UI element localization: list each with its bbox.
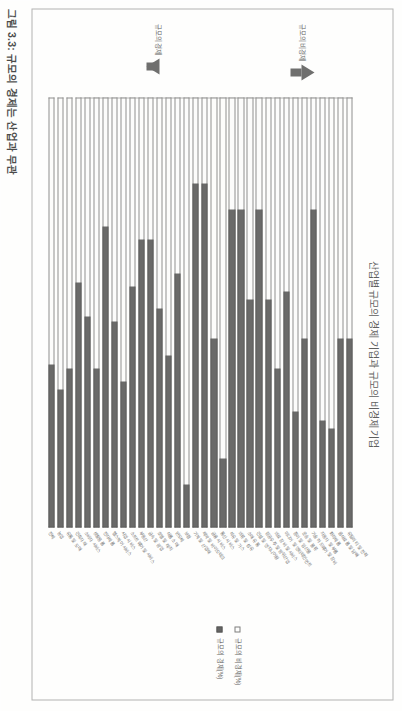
bar-series-container xyxy=(48,97,352,527)
bar-segment-economies xyxy=(301,338,307,527)
figure-frame: 산업별 규모의 경제 기업과 규모의 비경제 기업 규모의 비경제 규모의 경제 xyxy=(31,8,393,700)
bar-row xyxy=(210,97,216,527)
bar-segment-diseconomies xyxy=(183,97,189,484)
bar-row xyxy=(337,97,343,527)
bar-row xyxy=(66,97,72,527)
bar-row xyxy=(346,97,352,527)
bar-segment-diseconomies xyxy=(246,97,252,299)
bar-row xyxy=(48,97,54,527)
arrow-down-icon xyxy=(146,58,170,74)
bar-segment-diseconomies xyxy=(201,97,207,183)
bar-segment-economies xyxy=(138,239,144,527)
bar-segment-economies xyxy=(310,209,316,527)
bar-segment-economies xyxy=(57,389,63,527)
bar-segment-economies xyxy=(292,411,298,527)
bar-row xyxy=(265,97,271,527)
bar-segment-diseconomies xyxy=(48,97,54,364)
hollow-square-icon xyxy=(235,626,241,632)
bar-row xyxy=(93,97,99,527)
bar-row xyxy=(219,97,225,527)
bar-segment-economies xyxy=(219,458,225,527)
bar-segment-economies xyxy=(319,420,325,528)
bar-segment-economies xyxy=(120,381,126,527)
bar-segment-economies xyxy=(147,239,153,527)
bar-row xyxy=(228,97,234,527)
bar-row xyxy=(75,97,81,527)
bar-segment-economies xyxy=(183,484,189,527)
bar-segment-diseconomies xyxy=(292,97,298,411)
bar-segment-economies xyxy=(346,338,352,527)
bar-segment-economies xyxy=(283,291,289,528)
scanned-book-page: 산업별 규모의 경제 기업과 규모의 비경제 기업 규모의 비경제 규모의 경제 xyxy=(0,0,402,711)
bar-segment-economies xyxy=(174,273,180,527)
bar-row xyxy=(274,97,280,527)
figure-caption: 그림 3.3: 규모의 경제는 산업과 무관 xyxy=(4,8,19,175)
bar-row xyxy=(174,97,180,527)
bar-segment-diseconomies xyxy=(237,97,243,209)
bar-segment-economies xyxy=(237,209,243,527)
bar-segment-diseconomies xyxy=(256,97,262,209)
bar-segment-diseconomies xyxy=(301,97,307,338)
bar-segment-diseconomies xyxy=(219,97,225,458)
bar-segment-economies xyxy=(84,316,90,527)
bar-row xyxy=(283,97,289,527)
bar-segment-diseconomies xyxy=(328,97,334,428)
bar-segment-economies xyxy=(156,308,162,527)
bar-segment-economies xyxy=(246,299,252,527)
bar-row xyxy=(192,97,198,527)
bar-segment-economies xyxy=(256,209,262,527)
legend-label: 규모의 경제(%) xyxy=(215,637,224,679)
bar-segment-economies xyxy=(66,368,72,527)
bar-segment-diseconomies xyxy=(165,97,171,355)
bar-segment-diseconomies xyxy=(228,97,234,209)
bar-segment-economies xyxy=(129,286,135,527)
bar-segment-economies xyxy=(111,321,117,527)
bar-segment-diseconomies xyxy=(84,97,90,316)
scale-direction-annotations: 규모의 비경제 규모의 경제 xyxy=(80,23,320,93)
filled-square-icon xyxy=(217,626,223,632)
bar-segment-diseconomies xyxy=(75,97,81,282)
bar-segment-diseconomies xyxy=(337,97,343,338)
bar-row xyxy=(246,97,252,527)
bar-segment-diseconomies xyxy=(111,97,117,321)
legend-item: 규모의 비경제(%) xyxy=(233,626,242,685)
bar-segment-economies xyxy=(93,368,99,527)
bar-segment-diseconomies xyxy=(192,97,198,183)
bar-segment-diseconomies xyxy=(210,97,216,338)
bar-row xyxy=(102,97,108,527)
bar-row xyxy=(165,97,171,527)
plot-area xyxy=(80,97,352,527)
bar-segment-diseconomies xyxy=(265,97,271,299)
bar-row xyxy=(138,97,144,527)
bar-row xyxy=(319,97,325,527)
bar-segment-economies xyxy=(75,282,81,527)
bar-segment-diseconomies xyxy=(102,97,108,226)
bar-row xyxy=(156,97,162,527)
bar-segment-economies xyxy=(201,183,207,527)
bar-segment-diseconomies xyxy=(174,97,180,273)
bar-row xyxy=(310,97,316,527)
bar-row xyxy=(237,97,243,527)
bar-segment-diseconomies xyxy=(120,97,126,381)
bar-row xyxy=(183,97,189,527)
bar-segment-diseconomies xyxy=(57,97,63,389)
bar-row xyxy=(84,97,90,527)
bar-row xyxy=(111,97,117,527)
bar-row xyxy=(129,97,135,527)
bar-row xyxy=(57,97,63,527)
bar-row xyxy=(328,97,334,527)
bar-segment-diseconomies xyxy=(129,97,135,286)
bar-segment-diseconomies xyxy=(138,97,144,239)
bar-segment-diseconomies xyxy=(319,97,325,420)
arrow-up-label: 규모의 비경제 xyxy=(297,23,307,61)
bar-segment-economies xyxy=(337,338,343,527)
arrow-down-label: 규모의 경제 xyxy=(153,23,163,55)
bar-segment-diseconomies xyxy=(274,97,280,368)
bar-segment-economies xyxy=(192,183,198,527)
bar-row xyxy=(292,97,298,527)
arrow-up-icon xyxy=(290,64,314,80)
bar-row xyxy=(201,97,207,527)
chart-title: 산업별 규모의 경제 기업과 규모의 비경제 기업 xyxy=(366,9,381,699)
bar-row xyxy=(147,97,153,527)
legend-item: 규모의 경제(%) xyxy=(215,626,224,685)
